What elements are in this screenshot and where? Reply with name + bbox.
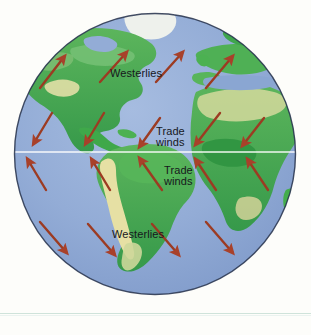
label-north-trade-winds-line2: winds [156, 137, 185, 149]
globe-illustration [0, 0, 311, 311]
label-south-westerlies: Westerlies [112, 229, 164, 241]
bottom-divider-rule-soft [0, 315, 311, 316]
globe-container [0, 0, 311, 311]
bottom-divider-rule [0, 313, 311, 314]
label-south-trade-winds-line2: winds [164, 176, 193, 188]
label-north-westerlies: Westerlies [110, 68, 162, 80]
wind-belts-figure: Westerlies Trade winds Trade winds Weste… [0, 0, 311, 335]
